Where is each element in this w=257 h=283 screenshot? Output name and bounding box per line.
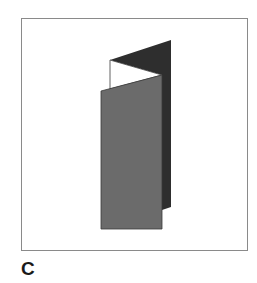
front-panel bbox=[101, 75, 162, 229]
figure-label: C bbox=[21, 259, 35, 279]
folded-leaflet-illustration bbox=[0, 0, 257, 283]
